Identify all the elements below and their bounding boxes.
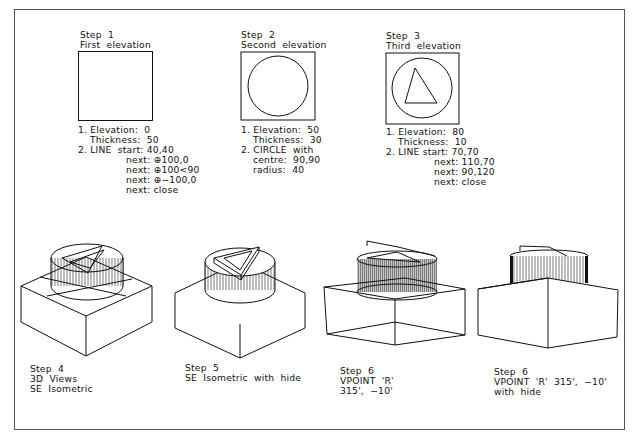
step6a-caption: 315', −10' [340, 386, 393, 396]
step4-caption: SE Isometric [30, 384, 93, 394]
step5-hidden-drawing [175, 247, 305, 358]
step5-caption: SE Isometric with hide [185, 373, 301, 383]
step6-vpoint-drawing [324, 241, 465, 345]
step6-vpoint-hidden-drawing [478, 246, 618, 348]
step4-wireframe-drawing [21, 244, 152, 356]
step6b-caption: with hide [494, 387, 541, 397]
isometric-drawings [0, 0, 635, 436]
